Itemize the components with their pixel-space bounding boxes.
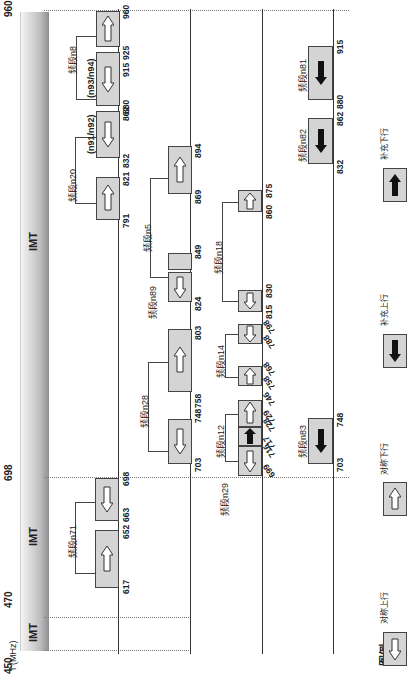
freq-label: 915 xyxy=(335,40,345,54)
hollow-arrow-left-icon xyxy=(389,637,401,661)
freq-label: 791 xyxy=(121,214,131,228)
band-n20-uplink-block xyxy=(96,111,120,158)
band-n14-downlink-block xyxy=(238,366,262,386)
hollow-arrow-left-icon xyxy=(174,275,186,299)
band-n12-downlink-block xyxy=(238,400,262,427)
boundary-698 xyxy=(44,477,349,478)
freq-label: 875 xyxy=(264,184,274,198)
hollow-arrow-left-icon xyxy=(102,121,114,149)
tick-960: 960 xyxy=(3,0,14,17)
freq-label: 703 xyxy=(335,458,345,472)
hollow-arrow-right-icon xyxy=(102,185,114,213)
freq-label: 830 xyxy=(264,284,274,298)
solid-arrow-left-icon xyxy=(315,60,327,86)
freq-label: 860 xyxy=(264,205,274,219)
freq-label: 880 xyxy=(335,95,345,109)
hollow-arrow-left-icon xyxy=(244,325,256,343)
solid-arrow-left-icon xyxy=(389,339,401,363)
freq-label: 821 xyxy=(121,172,131,186)
freq-label: 748 xyxy=(193,409,203,423)
freq-label: 849 xyxy=(193,245,203,259)
band-n83-sul-block xyxy=(308,418,333,464)
hollow-arrow-left-icon xyxy=(102,65,114,93)
legend-supplementary-downlink-swatch xyxy=(383,168,407,202)
band-n89-label: 频段n89 xyxy=(146,286,159,319)
band-n8-label: 频段n8 xyxy=(66,46,79,74)
freq-label: 925 xyxy=(121,46,131,60)
freq-label: 862 xyxy=(335,112,345,126)
band-n28-label: 频段n28 xyxy=(138,395,151,428)
freq-label: 960 xyxy=(121,5,131,19)
band-n71-label: 频段n71 xyxy=(66,525,79,558)
legend-symmetric-uplink-label: 对称上行 xyxy=(378,592,389,624)
freq-label: 824 xyxy=(193,297,203,311)
freq-label: 768 xyxy=(261,360,277,377)
hollow-arrow-right-icon xyxy=(101,545,113,573)
boundary-470 xyxy=(44,617,189,618)
band-n12-label: 频段n12 xyxy=(214,425,227,458)
hollow-arrow-right-icon xyxy=(174,156,186,184)
imt-segment-label: IMT xyxy=(27,527,39,546)
legend-symmetric-uplink-swatch xyxy=(383,632,407,666)
boundary-960 xyxy=(44,10,349,11)
boundary-450 xyxy=(44,650,189,651)
freq-label: 915 xyxy=(121,63,131,77)
solid-arrow-right-icon xyxy=(244,428,256,445)
band-n28-uplink-block xyxy=(168,419,192,464)
imt-segment-label: IMT xyxy=(27,232,39,251)
hollow-arrow-right-icon xyxy=(174,347,186,375)
imt-segment-label: IMT xyxy=(27,623,39,642)
freq-label: 803 xyxy=(193,326,203,340)
freq-label: 748 xyxy=(335,413,345,427)
itu-imt-bar xyxy=(20,12,49,651)
band-n71-downlink-block xyxy=(95,530,119,588)
band-n5-uplink-block xyxy=(168,272,192,302)
band-n83-label: 频段n83 xyxy=(296,425,309,458)
freq-label: 652 xyxy=(121,525,131,539)
freq-label: 880 xyxy=(121,100,131,114)
row-baseline-3 xyxy=(262,9,263,654)
legend-symmetric-downlink-swatch xyxy=(383,482,407,516)
freq-label: 894 xyxy=(193,144,203,158)
freq-label: 832 xyxy=(121,154,131,168)
solid-arrow-left-icon xyxy=(315,428,327,454)
band-n29-label: 频段n29 xyxy=(218,483,231,516)
band-n29-sdl-block xyxy=(238,427,262,446)
hollow-arrow-right-icon xyxy=(244,402,256,426)
hollow-arrow-right-icon xyxy=(244,367,256,385)
hollow-arrow-left-icon xyxy=(174,428,186,456)
band-n18-uplink-block xyxy=(238,290,262,312)
freq-label: 698 xyxy=(121,472,131,486)
freq-label: 815 xyxy=(264,305,274,319)
tick-698: 698 xyxy=(3,464,14,481)
band-n5-downlink-block xyxy=(168,146,192,194)
hollow-arrow-right-icon xyxy=(389,487,401,511)
freq-label: 703 xyxy=(193,458,203,472)
freq-label: 798 xyxy=(261,318,277,335)
freq-label: 869 xyxy=(193,190,203,204)
solid-arrow-right-icon xyxy=(389,173,401,197)
band-n81-sul-block xyxy=(308,46,333,100)
tick-450: 450 xyxy=(3,657,14,674)
band-n8-uplink-block xyxy=(96,52,120,106)
band-n8-downlink-block xyxy=(96,11,120,47)
band-n12-uplink-block xyxy=(238,446,262,476)
band-n82-label: 频段n82 xyxy=(296,129,309,162)
freq-label: 758 xyxy=(193,394,203,408)
frequency-allocation-diagram: f (MHz) ITU: 450 698 960 470 IMT IMT IMT… xyxy=(0,0,411,674)
hollow-arrow-left-icon xyxy=(244,449,256,473)
band-n28-bracket xyxy=(148,362,168,452)
freq-label: 663 xyxy=(121,508,131,522)
band-n89-uplink-block xyxy=(168,253,192,270)
legend-supplementary-uplink-swatch xyxy=(383,334,407,368)
legend-symmetric-downlink-label: 对称下行 xyxy=(378,443,389,475)
band-n14-label: 频段n14 xyxy=(214,345,227,378)
band-n91-n92-label: (n91/n92) xyxy=(86,114,96,154)
row-baseline-4 xyxy=(333,9,334,654)
freq-label: 617 xyxy=(121,580,131,594)
tick-470: 470 xyxy=(3,591,14,608)
band-n14-uplink-block xyxy=(238,324,262,344)
band-n93-n94-label: (n93/n94) xyxy=(86,58,96,98)
band-n81-label: 频段n81 xyxy=(296,59,309,92)
hollow-arrow-right-icon xyxy=(102,15,114,43)
